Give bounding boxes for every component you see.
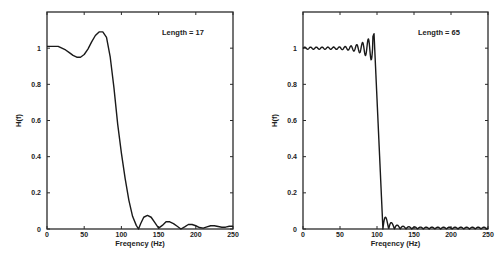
length-annotation: Length = 65 <box>418 28 460 37</box>
x-tick-label: 50 <box>80 231 88 238</box>
y-tick-label: 0.8 <box>287 81 297 88</box>
plot-frame-1 <box>47 12 233 229</box>
y-tick-label: 1 <box>293 45 297 52</box>
x-tick-label: 250 <box>227 231 239 238</box>
y-tick-label: 0.6 <box>287 117 297 124</box>
x-tick-label: 200 <box>445 231 457 238</box>
x-axis-label: Freqency (Hz) <box>371 239 421 248</box>
y-tick-label: 0.2 <box>31 189 41 196</box>
x-tick-label: 250 <box>482 231 494 238</box>
x-tick-label: 0 <box>45 231 49 238</box>
response-curve <box>47 32 233 229</box>
x-tick-label: 100 <box>116 231 128 238</box>
y-tick-label: 0.4 <box>31 153 41 160</box>
length-annotation: Length = 17 <box>162 28 204 37</box>
x-tick-label: 200 <box>190 231 202 238</box>
x-tick-label: 0 <box>301 231 305 238</box>
plot-frame-2 <box>303 12 488 229</box>
figure: 05010015020025000.20.40.60.81Freqency (H… <box>0 0 497 258</box>
y-tick-label: 1 <box>37 45 41 52</box>
y-tick-label: 0.6 <box>31 117 41 124</box>
x-tick-label: 150 <box>408 231 420 238</box>
y-axis-label: H(f) <box>270 114 279 127</box>
y-tick-label: 0 <box>37 226 41 233</box>
y-tick-label: 0.2 <box>287 189 297 196</box>
x-axis-label: Freqency (Hz) <box>115 239 165 248</box>
y-tick-label: 0 <box>293 226 297 233</box>
x-tick-label: 50 <box>336 231 344 238</box>
x-tick-label: 150 <box>153 231 165 238</box>
y-axis-label: H(f) <box>14 114 23 127</box>
y-tick-label: 0.4 <box>287 153 297 160</box>
response-curve <box>303 34 488 229</box>
y-tick-label: 0.8 <box>31 81 41 88</box>
x-tick-label: 100 <box>371 231 383 238</box>
